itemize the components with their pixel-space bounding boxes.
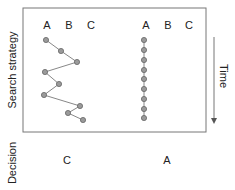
time-label: Time [218, 64, 230, 88]
right-option-a: A [142, 19, 150, 31]
path-point [141, 115, 146, 120]
path-point [141, 37, 146, 42]
left-search-path [41, 37, 85, 122]
path-point [58, 48, 63, 53]
path-point [141, 86, 146, 91]
path-point [141, 57, 146, 62]
path-point [80, 117, 85, 122]
path-point [141, 47, 146, 52]
arrow-down-icon [211, 118, 217, 124]
path-point [41, 92, 46, 97]
search-strategy-label: Search strategy [6, 31, 18, 109]
right-search-path [141, 37, 146, 120]
path-point [43, 37, 48, 42]
right-decision: A [163, 154, 171, 166]
path-point [141, 96, 146, 101]
left-option-c: C [87, 19, 95, 31]
diagram: A B C A B C Time Search strategy Decisio… [0, 0, 235, 190]
path-point [56, 81, 61, 86]
path-point [77, 103, 82, 108]
time-arrow: Time [211, 37, 230, 124]
path-point [74, 59, 79, 64]
left-decision: C [63, 154, 71, 166]
right-option-c: C [185, 19, 193, 31]
path-point [141, 76, 146, 81]
decision-label: Decision [6, 142, 18, 184]
path-point [141, 106, 146, 111]
left-option-b: B [65, 19, 72, 31]
left-option-a: A [43, 19, 51, 31]
path-point [42, 69, 47, 74]
left-options: A B C [43, 19, 95, 31]
path-point [65, 110, 70, 115]
right-options: A B C [142, 19, 193, 31]
path-point [141, 67, 146, 72]
right-option-b: B [164, 19, 171, 31]
